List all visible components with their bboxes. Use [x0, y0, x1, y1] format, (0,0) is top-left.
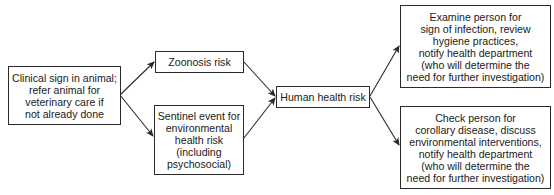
- node-clinical-sign-label: Clinical sign in animal; refer animal fo…: [12, 72, 117, 120]
- arrow-sentinel-to-human: [244, 98, 275, 138]
- arrow-clinical-to-sentinel: [120, 95, 153, 136]
- arrow-zoonosis-to-human: [244, 62, 275, 96]
- node-sentinel-event-label: Sentinel event for environmental health …: [158, 110, 240, 170]
- node-human-health-risk-label: Human health risk: [280, 91, 365, 103]
- node-examine-person-label: Examine person for sign of infection, re…: [407, 11, 545, 83]
- node-zoonosis-risk: Zoonosis risk: [155, 51, 244, 73]
- arrow-clinical-to-zoonosis: [120, 62, 154, 95]
- arrow-human-to-examine: [370, 46, 399, 96]
- node-sentinel-event: Sentinel event for environmental health …: [154, 105, 244, 175]
- node-check-person: Check person for corollary disease, disc…: [400, 106, 551, 189]
- node-clinical-sign: Clinical sign in animal; refer animal fo…: [8, 66, 121, 125]
- node-human-health-risk: Human health risk: [276, 86, 370, 108]
- node-examine-person: Examine person for sign of infection, re…: [400, 5, 551, 88]
- arrow-human-to-check: [370, 97, 399, 145]
- node-check-person-label: Check person for corollary disease, disc…: [407, 112, 545, 184]
- node-zoonosis-risk-label: Zoonosis risk: [168, 56, 230, 68]
